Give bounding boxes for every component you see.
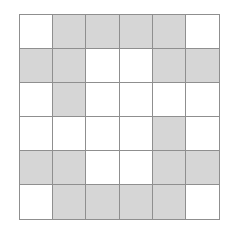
grid-cell-empty [186, 117, 219, 151]
grid-cell-empty [186, 83, 219, 117]
grid-cell-empty [86, 49, 119, 83]
grid-cell-shaded [86, 185, 119, 219]
grid-cell-empty [120, 49, 153, 83]
grid-cell-shaded [86, 15, 119, 49]
grid-cell-empty [186, 15, 219, 49]
grid-cell-shaded [20, 151, 53, 185]
shaded-grid [19, 14, 220, 220]
grid-cell-shaded [153, 117, 186, 151]
grid-cell-empty [20, 15, 53, 49]
grid-cell-shaded [53, 15, 86, 49]
grid-cell-shaded [53, 49, 86, 83]
grid-cell-empty [153, 83, 186, 117]
grid-cell-shaded [53, 151, 86, 185]
grid-cell-empty [186, 185, 219, 219]
grid-cell-empty [53, 117, 86, 151]
grid-cell-empty [120, 151, 153, 185]
grid-cell-shaded [186, 49, 219, 83]
grid-cell-shaded [20, 49, 53, 83]
grid-cell-empty [20, 83, 53, 117]
grid-cell-empty [20, 185, 53, 219]
grid-cell-empty [86, 83, 119, 117]
grid-cell-shaded [120, 185, 153, 219]
grid-cell-shaded [186, 151, 219, 185]
grid-cell-shaded [153, 15, 186, 49]
grid-cell-shaded [153, 151, 186, 185]
grid-cell-shaded [153, 49, 186, 83]
grid-cell-shaded [53, 185, 86, 219]
grid-cell-shaded [120, 15, 153, 49]
grid-cell-empty [86, 117, 119, 151]
grid-cell-shaded [53, 83, 86, 117]
grid-cell-empty [20, 117, 53, 151]
grid-cell-empty [86, 151, 119, 185]
grid-cell-empty [120, 117, 153, 151]
grid-cell-empty [120, 83, 153, 117]
grid-cell-shaded [153, 185, 186, 219]
